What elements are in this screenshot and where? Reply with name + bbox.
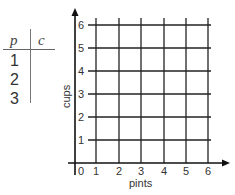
y-axis-arrow-icon [72,8,79,16]
x-tick-2: 2 [116,165,122,177]
x-tick-6: 6 [205,165,211,177]
coordinate-grid: 6 5 4 3 2 1 0 1 2 3 4 5 6 pints cups [0,0,235,195]
x-axis-arrow-icon [222,160,230,167]
horizontal-grid-lines [88,25,211,140]
y-tick-4: 4 [78,65,84,77]
vertical-grid-lines [96,18,208,163]
y-tick-5: 5 [78,42,84,54]
y-axis-label: cups [60,84,72,108]
y-tick-labels: 6 5 4 3 2 1 [78,19,84,146]
y-tick-3: 3 [78,88,84,100]
x-tick-3: 3 [138,165,144,177]
y-tick-1: 1 [78,134,84,146]
y-tick-2: 2 [78,111,84,123]
x-tick-4: 4 [161,165,167,177]
x-tick-labels: 0 1 2 3 4 5 6 [78,165,211,177]
y-tick-6: 6 [78,19,84,31]
x-tick-1: 1 [93,165,99,177]
x-tick-5: 5 [183,165,189,177]
x-tick-0: 0 [78,165,84,177]
x-axis-label: pints [129,177,153,189]
